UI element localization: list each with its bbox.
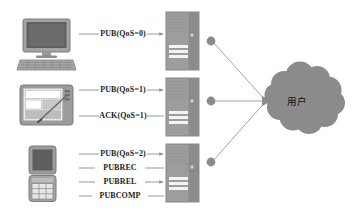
user-cloud-label: 用户: [287, 94, 307, 108]
label-pub-qos1: PUB(QoS=1): [99, 85, 147, 94]
label-pub-qos2: PUB(QoS=2): [99, 149, 147, 158]
tablet-device-icon: [20, 85, 73, 125]
desktop-computer-icon: [17, 19, 76, 70]
server-tower-icon-bottom: [166, 144, 199, 202]
label-pub-qos0: PUB(QoS=0): [99, 29, 147, 38]
server-tower-icon-top: [166, 12, 199, 70]
label-pubrel: PUBREL: [95, 177, 145, 186]
connection-node-bottom: [207, 158, 216, 167]
label-pubrec: PUBREC: [95, 163, 145, 172]
label-ack-qos1: ACK(QoS=1): [99, 111, 147, 120]
connection-node-middle: [207, 97, 216, 106]
connection-node-top: [207, 37, 216, 46]
label-pubcomp: PUBCOMP: [92, 191, 148, 200]
server-tower-icon-middle: [166, 78, 199, 136]
connection-nodes: [207, 37, 216, 167]
cloud-connection-lines: [212, 41, 272, 162]
mqtt-qos-diagram: PUB(QoS=0) PUB(QoS=1) ACK(QoS=1) PUB(QoS…: [0, 0, 355, 213]
mobile-phone-icon: [29, 146, 56, 202]
